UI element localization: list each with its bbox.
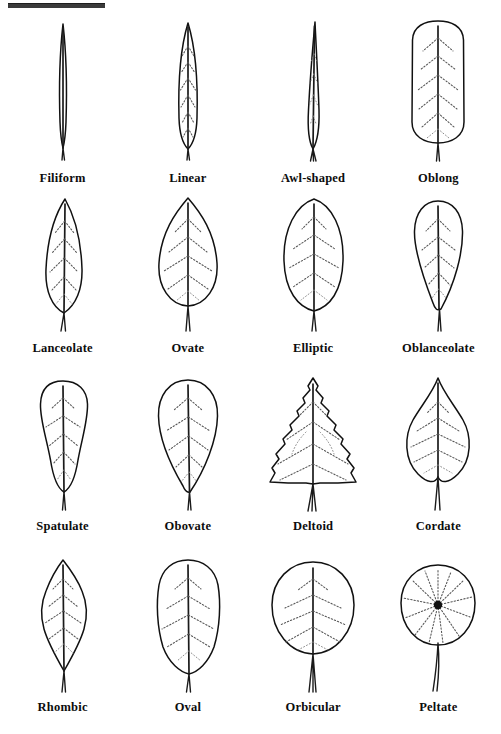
leaf-label-cordate: Cordate [416, 520, 461, 533]
leaf-label-rhombic: Rhombic [38, 701, 88, 714]
oval-leaf-drawing [133, 553, 243, 693]
leaf-cell-ovate: Ovate [125, 191, 250, 372]
leaf-cell-rhombic: Rhombic [0, 553, 125, 734]
leaf-cell-lanceolate: Lanceolate [0, 191, 125, 372]
leaf-label-linear: Linear [169, 172, 206, 185]
leaf-cell-cordate: Cordate [376, 372, 501, 553]
leaf-label-lanceolate: Lanceolate [32, 342, 92, 355]
leaf-label-awl-shaped: Awl-shaped [281, 172, 345, 185]
rhombic-leaf-drawing [8, 553, 118, 693]
ovate-leaf-drawing [133, 191, 243, 333]
peltate-petiole-attachment-point [434, 601, 442, 609]
leaf-cell-awl-shaped: Awl-shaped [251, 10, 376, 191]
leaf-cell-orbicular: Orbicular [251, 553, 376, 734]
peltate-leaf-drawing [383, 553, 493, 693]
linear-leaf-drawing [133, 10, 243, 162]
elliptic-leaf-drawing [258, 191, 368, 333]
leaf-cell-peltate: Peltate [376, 553, 501, 734]
leaf-shapes-figure: Filiform Linear [0, 0, 501, 734]
leaf-cell-oblong: Oblong [376, 10, 501, 191]
lanceolate-leaf-drawing [8, 191, 118, 333]
leaf-label-spatulate: Spatulate [36, 520, 89, 533]
obovate-leaf-drawing [133, 372, 243, 512]
leaf-label-oblong: Oblong [418, 172, 459, 185]
oblanceolate-leaf-drawing [383, 191, 493, 333]
leaf-cell-obovate: Obovate [125, 372, 250, 553]
leaf-label-elliptic: Elliptic [293, 342, 334, 355]
leaf-label-peltate: Peltate [419, 701, 457, 714]
cordate-leaf-drawing [383, 372, 493, 512]
filiform-leaf-drawing [8, 10, 118, 162]
leaf-label-deltoid: Deltoid [293, 520, 333, 533]
leaf-cell-elliptic: Elliptic [251, 191, 376, 372]
leaf-cell-linear: Linear [125, 10, 250, 191]
leaf-cell-filiform: Filiform [0, 10, 125, 191]
leaf-grid: Filiform Linear [0, 10, 501, 734]
leaf-cell-oblanceolate: Oblanceolate [376, 191, 501, 372]
leaf-label-oval: Oval [175, 701, 202, 714]
top-rule-bar [8, 3, 105, 8]
leaf-label-oblanceolate: Oblanceolate [402, 342, 475, 355]
leaf-cell-spatulate: Spatulate [0, 372, 125, 553]
leaf-cell-oval: Oval [125, 553, 250, 734]
leaf-cell-deltoid: Deltoid [251, 372, 376, 553]
spatulate-leaf-drawing [8, 372, 118, 512]
orbicular-leaf-drawing [258, 553, 368, 693]
leaf-label-orbicular: Orbicular [285, 701, 340, 714]
awl-shaped-leaf-drawing [258, 10, 368, 162]
leaf-label-filiform: Filiform [40, 172, 86, 185]
leaf-label-ovate: Ovate [171, 342, 204, 355]
oblong-leaf-drawing [383, 10, 493, 162]
leaf-label-obovate: Obovate [165, 520, 212, 533]
deltoid-leaf-drawing [258, 372, 368, 512]
